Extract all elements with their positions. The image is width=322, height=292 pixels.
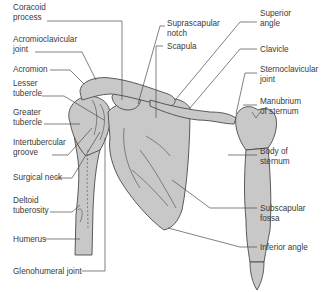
label-superior-angle: Superior angle (260, 9, 293, 28)
label-intertubercular-groove: Intertubercular groove (13, 138, 68, 157)
label-glenohumeral-joint: Glenohumeral joint (13, 267, 82, 276)
label-body-of-sternum: Body of sternum (260, 147, 290, 166)
scapula-bone (108, 98, 190, 230)
label-clavicle: Clavicle (260, 45, 289, 54)
label-coracoid-process: Coracoid process (13, 3, 48, 22)
xiphoid-process (250, 262, 264, 290)
shoulder-girdle-diagram: Coracoid process Acromioclavicular joint… (0, 0, 322, 292)
label-inferior-angle: Inferior angle (260, 243, 308, 252)
label-acromion: Acromion (13, 65, 48, 74)
label-acromioclavicular-joint: Acromioclavicular joint (12, 35, 79, 54)
label-sternoclavicular-joint: Sternoclavicular joint (259, 65, 321, 84)
label-greater-tubercle: Greater tubercle (13, 108, 43, 127)
label-suprascapular-notch: Suprascapular notch (167, 19, 222, 38)
label-surgical-neck: Surgical neck (13, 173, 63, 182)
label-lesser-tubercle: Lesser tubercle (13, 79, 43, 98)
label-subscapular-fossa: Subscapular fossa (260, 204, 308, 223)
label-deltoid-tuberosity: Deltoid tuberosity (13, 196, 49, 215)
label-scapula: Scapula (167, 42, 197, 51)
label-humerus: Humerus (13, 235, 46, 244)
label-manubrium: Manubrium of sternum (260, 97, 303, 116)
